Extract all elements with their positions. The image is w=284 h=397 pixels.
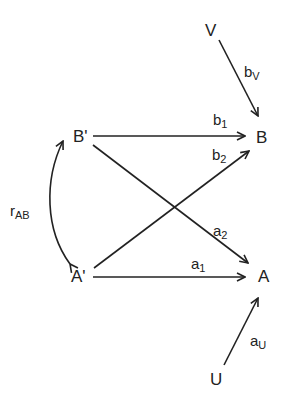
coef-a2-sub: 2 xyxy=(221,229,227,241)
coef-b1-sub: 1 xyxy=(221,118,227,130)
coef-b1: b1 xyxy=(213,112,227,130)
coef-rab-sub: AB xyxy=(15,209,30,221)
node-a: A xyxy=(258,268,269,285)
coef-b2-sub: 2 xyxy=(220,153,226,165)
path-diagram-canvas xyxy=(0,0,284,397)
coef-a2: a2 xyxy=(213,223,227,241)
coef-bv-sub: V xyxy=(252,70,259,82)
node-a-prime: A' xyxy=(71,268,86,285)
node-b-prime: B' xyxy=(73,128,88,145)
node-u: U xyxy=(210,371,222,388)
coef-bv: bV xyxy=(244,64,260,82)
coef-au: aU xyxy=(250,333,266,351)
coef-a1: a1 xyxy=(191,256,205,274)
node-b: B xyxy=(256,129,267,146)
coef-a1-sub: 1 xyxy=(199,262,205,274)
edge-aprime-b xyxy=(94,151,249,268)
node-v: V xyxy=(205,22,216,39)
coef-au-sub: U xyxy=(258,339,266,351)
edge-aprime-bprime-correlation xyxy=(50,141,70,264)
coef-rab: rAB xyxy=(10,203,30,221)
coef-b2: b2 xyxy=(212,147,226,165)
